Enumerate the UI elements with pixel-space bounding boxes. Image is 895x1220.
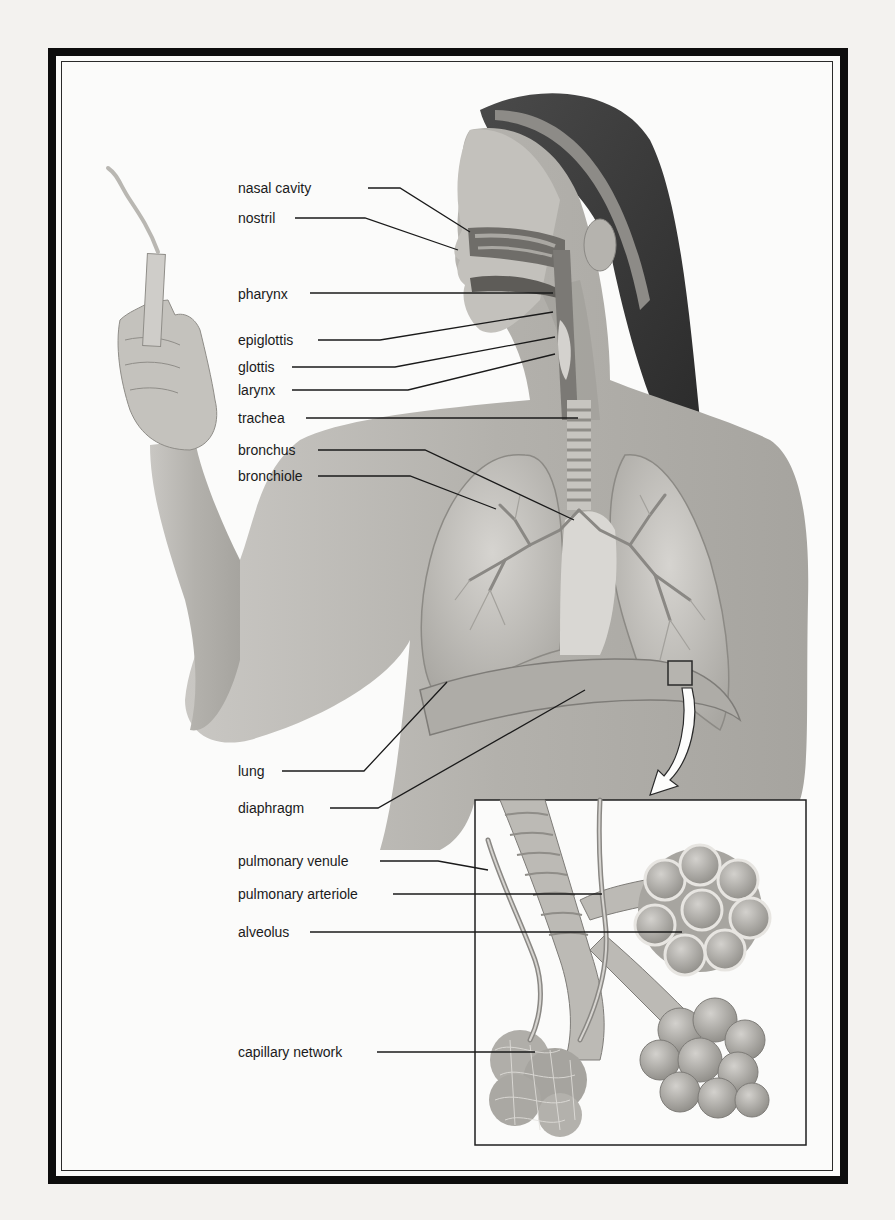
leader-line-pulmonary-venule bbox=[380, 861, 488, 870]
trachea bbox=[567, 400, 591, 510]
label-alveolus: alveolus bbox=[238, 924, 289, 940]
leader-line-larynx bbox=[292, 354, 555, 390]
label-lung: lung bbox=[238, 763, 264, 779]
label-glottis: glottis bbox=[238, 359, 275, 375]
smoke-plume bbox=[108, 168, 158, 252]
label-pharynx: pharynx bbox=[238, 286, 288, 302]
label-pulmonary-venule: pulmonary venule bbox=[238, 853, 349, 869]
label-pulmonary-arteriole: pulmonary arteriole bbox=[238, 886, 358, 902]
leader-line-nasal-cavity bbox=[368, 188, 470, 232]
label-capillary-network: capillary network bbox=[238, 1044, 342, 1060]
label-larynx: larynx bbox=[238, 382, 275, 398]
label-diaphragm: diaphragm bbox=[238, 800, 304, 816]
label-epiglottis: epiglottis bbox=[238, 332, 293, 348]
respiratory-illustration bbox=[0, 0, 895, 1220]
alveoli-inset bbox=[475, 800, 806, 1145]
label-bronchus: bronchus bbox=[238, 442, 296, 458]
label-bronchiole: bronchiole bbox=[238, 468, 303, 484]
leader-line-nostril bbox=[295, 218, 458, 250]
label-nostril: nostril bbox=[238, 210, 275, 226]
label-trachea: trachea bbox=[238, 410, 285, 426]
raised-arm bbox=[108, 168, 240, 730]
label-nasal-cavity: nasal cavity bbox=[238, 180, 311, 196]
